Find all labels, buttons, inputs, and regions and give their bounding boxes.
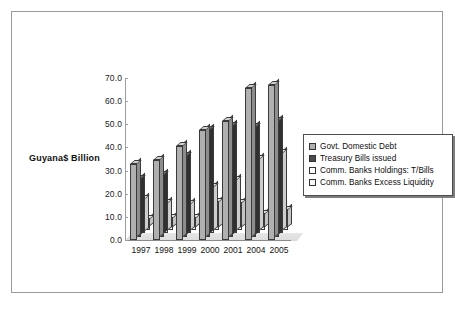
y-tick-mark (125, 217, 128, 218)
legend-label: Comm. Banks Holdings: T/Bills (320, 166, 434, 175)
y-tick-mark (125, 78, 128, 79)
x-tick-label: 1999 (175, 245, 199, 255)
y-tick-mark (125, 124, 128, 125)
bar-side (164, 169, 168, 233)
bar-1997-series0 (130, 164, 137, 240)
bar-2000-series0 (199, 130, 206, 240)
bar-side (206, 124, 210, 237)
bar-2004-series0 (245, 88, 252, 240)
y-tick-mark (125, 194, 128, 195)
y-tick-label: 60.0 (105, 97, 122, 105)
legend-item[interactable]: Govt. Domestic Debt (309, 142, 446, 151)
legend-label: Comm. Banks Excess Liquidity (320, 178, 434, 187)
bar-side (214, 181, 218, 230)
bar-2001-series0 (222, 121, 229, 240)
y-tick-mark (125, 171, 128, 172)
bar-side (275, 79, 279, 237)
y-tick-label: 50.0 (105, 120, 122, 128)
x-tick-label: 2001 (221, 245, 245, 255)
x-tick-label: 2004 (244, 245, 268, 255)
y-axis-tick-labels: 70.060.050.040.030.020.010.00.0 (90, 74, 122, 246)
legend-label: Govt. Domestic Debt (320, 142, 396, 151)
bar-face (245, 88, 252, 240)
bar-1999-series0 (176, 146, 183, 240)
bar-side (187, 149, 191, 233)
legend-item[interactable]: Treasury Bills issued (309, 154, 446, 163)
bar-side (210, 124, 214, 234)
bar-side (233, 119, 237, 233)
y-tick-label: 20.0 (105, 190, 122, 198)
y-tick-mark (125, 101, 128, 102)
y-tick-label: 40.0 (105, 143, 122, 151)
bar-face (199, 130, 206, 240)
bar-side (256, 121, 260, 234)
bar-2005-series0 (268, 85, 275, 240)
y-tick-label: 30.0 (105, 167, 122, 175)
bar-side (141, 173, 145, 234)
x-tick-label: 1997 (129, 245, 153, 255)
plot-area (125, 78, 290, 240)
bar-side (160, 154, 164, 237)
legend-swatch-icon (309, 143, 316, 150)
chart-frame: Guyana$ Billion 70.060.050.040.030.020.0… (11, 11, 443, 293)
bar-side (183, 140, 187, 237)
bar-side (252, 82, 256, 237)
bar-face (153, 160, 160, 240)
x-axis-line (125, 240, 291, 241)
bar-1998-series0 (153, 160, 160, 240)
bar-side (283, 147, 287, 230)
x-tick-label: 1998 (152, 245, 176, 255)
bar-side (260, 153, 264, 230)
legend-swatch-icon (309, 155, 316, 162)
bar-side (237, 174, 241, 230)
legend-swatch-icon (309, 167, 316, 174)
x-tick-label: 2000 (198, 245, 222, 255)
bar-face (268, 85, 275, 240)
bar-side (279, 115, 283, 234)
legend-item[interactable]: Comm. Banks Excess Liquidity (309, 178, 446, 187)
bar-side (229, 115, 233, 237)
chart-legend: Govt. Domestic DebtTreasury Bills issued… (303, 134, 453, 196)
y-tick-mark (125, 147, 128, 148)
y-tick-label: 0.0 (110, 236, 122, 244)
bar-face (222, 121, 229, 240)
y-tick-label: 10.0 (105, 213, 122, 221)
screenshot-root: Guyana$ Billion 70.060.050.040.030.020.0… (0, 0, 455, 309)
legend-swatch-icon (309, 179, 316, 186)
y-tick-mark (125, 240, 128, 241)
y-tick-label: 70.0 (105, 74, 122, 82)
bar-face (176, 146, 183, 240)
legend-item[interactable]: Comm. Banks Holdings: T/Bills (309, 166, 446, 175)
bar-side (137, 158, 141, 237)
x-tick-label: 2005 (267, 245, 291, 255)
bar-face (130, 164, 137, 240)
legend-label: Treasury Bills issued (320, 154, 396, 163)
